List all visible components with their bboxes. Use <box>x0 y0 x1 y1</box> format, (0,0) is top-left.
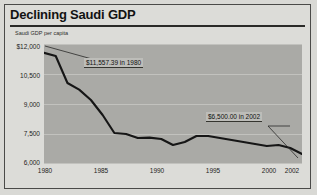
data-line-series <box>44 44 302 164</box>
y-tick-label: 10,500 <box>2 72 40 79</box>
y-tick-label: 6,000 <box>2 159 40 166</box>
page-title: Declining Saudi GDP <box>10 7 136 22</box>
plot-area <box>44 44 302 164</box>
x-tick-label: 1995 <box>193 167 233 174</box>
y-tick-label: 7,500 <box>2 130 40 137</box>
y-axis-label: Saudi GDP per capita <box>15 30 68 36</box>
title-block: Declining Saudi GDP <box>10 7 305 27</box>
x-tick-label: 1980 <box>25 167 65 174</box>
annotation-start-value: $11,557.39 in 1980 <box>84 58 143 68</box>
x-tick-label: 2002 <box>272 167 312 174</box>
annotation-end-value: $6,500.00 in 2002 <box>206 112 262 122</box>
x-tick-label: 1985 <box>81 167 121 174</box>
x-tick-label: 1990 <box>137 167 177 174</box>
y-tick-label: $12,000 <box>2 43 40 50</box>
chart-figure: Declining Saudi GDP Saudi GDP per capita… <box>0 0 317 195</box>
title-divider <box>10 25 305 27</box>
y-tick-label: 9,000 <box>2 101 40 108</box>
